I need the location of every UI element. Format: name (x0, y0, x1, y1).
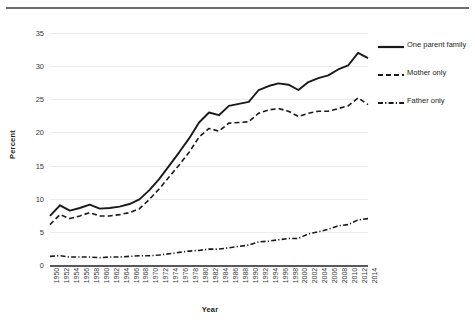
legend-line-swatch (378, 99, 404, 107)
series-line (50, 219, 368, 258)
x-tick-label: 1976 (182, 268, 189, 283)
y-tick-label: 25 (18, 95, 44, 104)
x-tick-label: 1998 (292, 268, 299, 283)
series-line (50, 98, 368, 225)
chart-legend: One parent familyMother onlyFather only (378, 40, 473, 124)
x-tick-label: 1980 (202, 268, 209, 283)
figure: 05101520253035 1950195219541956195819601… (0, 0, 475, 323)
x-tick-label: 2000 (301, 268, 308, 283)
x-tick-label: 2008 (341, 268, 348, 283)
x-tick-label: 1950 (53, 268, 60, 283)
x-tick-label: 1954 (73, 268, 80, 283)
x-tick-label: 1956 (83, 268, 90, 283)
x-tick-label: 1978 (192, 268, 199, 283)
x-tick-label: 1968 (142, 268, 149, 283)
legend-item[interactable]: Father only (378, 96, 473, 108)
x-tick-label: 1972 (162, 268, 169, 283)
legend-label: Father only (407, 96, 473, 106)
x-tick-label: 1996 (282, 268, 289, 283)
x-tick-label: 1994 (272, 268, 279, 283)
legend-label: Mother only (407, 68, 473, 78)
legend-line-swatch (378, 71, 404, 79)
y-axis-tick-labels: 05101520253035 (14, 0, 44, 323)
x-tick-label: 1992 (262, 268, 269, 283)
y-tick-label: 0 (18, 261, 44, 270)
x-tick-label: 1990 (252, 268, 259, 283)
y-tick-label: 20 (18, 128, 44, 137)
legend-label: One parent family (407, 40, 473, 50)
x-tick-label: 2012 (361, 268, 368, 283)
y-tick-label: 30 (18, 62, 44, 71)
x-tick-label: 1966 (133, 268, 140, 283)
x-tick-label: 2006 (331, 268, 338, 283)
x-tick-label: 1974 (172, 268, 179, 283)
legend-item[interactable]: Mother only (378, 68, 473, 80)
x-tick-label: 1970 (152, 268, 159, 283)
x-tick-label: 1964 (123, 268, 130, 283)
x-tick-label: 1988 (242, 268, 249, 283)
x-tick-label: 2004 (321, 268, 328, 283)
x-tick-label: 2010 (351, 268, 358, 283)
x-tick-label: 1986 (232, 268, 239, 283)
x-tick-label: 1952 (63, 268, 70, 283)
y-tick-label: 35 (18, 29, 44, 38)
x-tick-label: 1984 (222, 268, 229, 283)
series-line (50, 53, 368, 216)
legend-item[interactable]: One parent family (378, 40, 473, 52)
x-tick-label: 1962 (113, 268, 120, 283)
x-tick-label: 1960 (103, 268, 110, 283)
x-tick-label: 1982 (212, 268, 219, 283)
x-tick-label: 1958 (93, 268, 100, 283)
x-tick-label: 2014 (371, 268, 378, 283)
y-tick-label: 15 (18, 162, 44, 171)
x-axis-tick-labels: 1950195219541956195819601962196419661968… (50, 268, 368, 308)
y-axis-title: Percent (8, 115, 17, 175)
legend-line-swatch (378, 43, 404, 51)
x-axis-title: Year (180, 305, 240, 314)
y-tick-label: 10 (18, 195, 44, 204)
y-tick-label: 5 (18, 228, 44, 237)
x-tick-label: 2002 (311, 268, 318, 283)
